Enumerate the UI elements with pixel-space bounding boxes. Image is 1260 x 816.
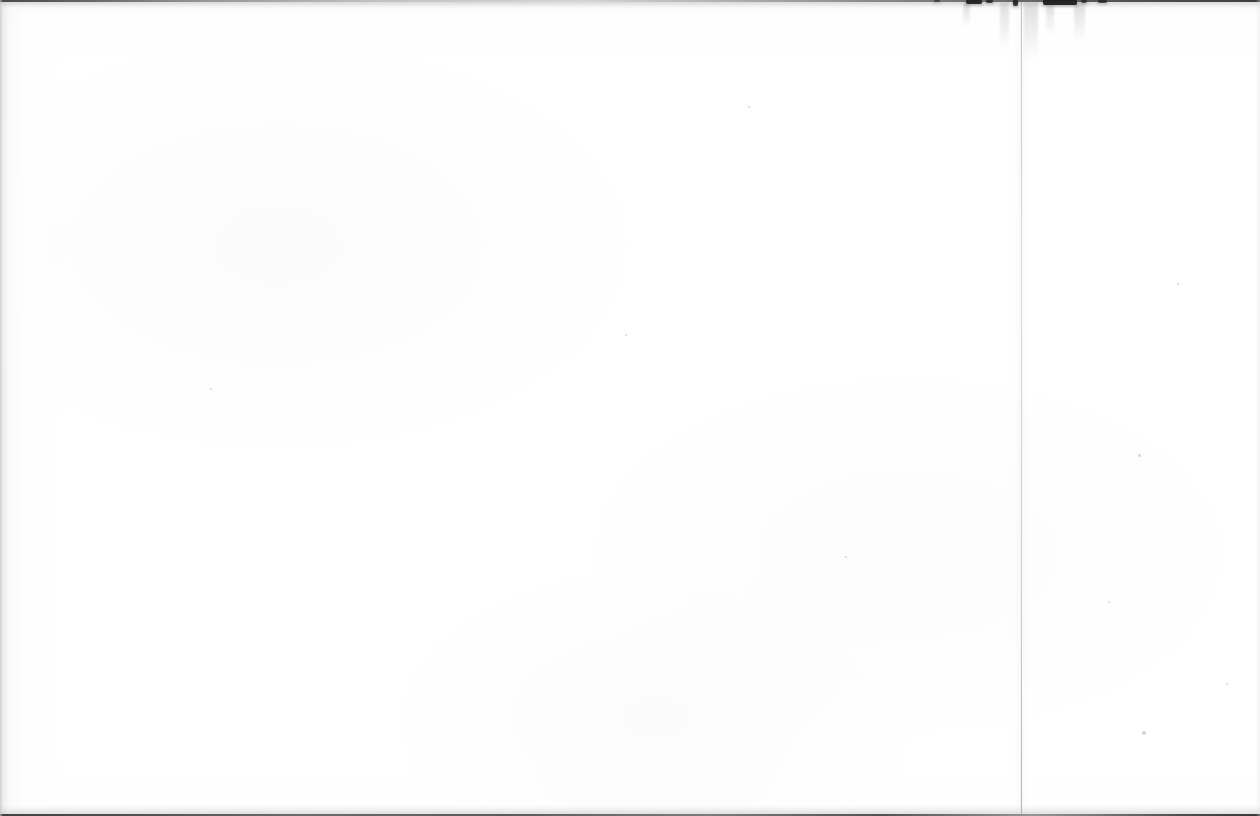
gutter-smudge xyxy=(963,2,970,28)
page-fold-crease xyxy=(1021,0,1022,816)
clipped-ink-mark xyxy=(1013,0,1018,6)
clipped-ink-mark-blur xyxy=(965,0,983,6)
scanned-page xyxy=(0,0,1260,816)
clipped-ink-mark xyxy=(1098,0,1107,3)
scan-edge-top xyxy=(0,0,1260,2)
page-fold-halo xyxy=(1013,0,1029,816)
scan-edge-right xyxy=(1256,0,1260,816)
dust-speck xyxy=(1142,731,1146,735)
gutter-smudge xyxy=(1024,2,1038,60)
clipped-ink-mark-blur xyxy=(1042,0,1078,7)
scan-edge-bottom-shadow xyxy=(0,806,1260,814)
clipped-ink-mark xyxy=(1081,0,1087,3)
clipped-ink-mark-blur xyxy=(1080,0,1088,5)
clipped-ink-mark xyxy=(934,0,940,2)
clipped-ink-mark-blur xyxy=(1097,0,1108,5)
clipped-ink-mark xyxy=(966,0,982,4)
gutter-smudge xyxy=(1074,2,1085,42)
clipped-ink-mark xyxy=(1043,0,1077,5)
scan-edge-left xyxy=(0,0,3,816)
dust-speck xyxy=(1108,601,1110,603)
clipped-ink-mark-blur xyxy=(1012,0,1019,8)
clipped-ink-mark-blur xyxy=(933,0,941,4)
clipped-ink-mark-blur xyxy=(985,0,994,5)
gutter-smudge xyxy=(1046,2,1054,36)
gutter-smudge xyxy=(1000,2,1009,48)
page-content xyxy=(120,90,940,730)
clipped-ink-mark xyxy=(986,0,993,3)
dust-speck xyxy=(1138,454,1141,457)
scan-edge-top-shadow xyxy=(0,2,1260,8)
dust-speck xyxy=(1226,683,1228,685)
dust-speck xyxy=(1177,283,1179,285)
